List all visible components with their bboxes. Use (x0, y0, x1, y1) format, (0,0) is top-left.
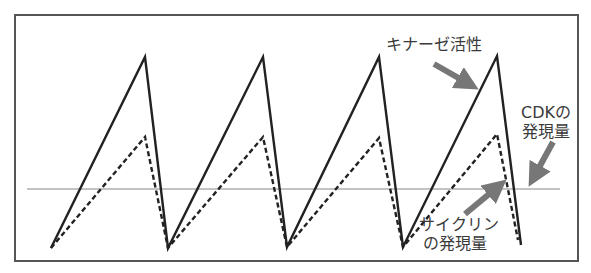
cell-cycle-diagram (0, 0, 591, 273)
cyclin-arrow-icon (465, 186, 498, 214)
cdk-expression-label: CDKの 発現量 (516, 103, 576, 141)
cdk-arrow-icon (534, 142, 553, 177)
cyclin-label-line1: サイクリン (419, 215, 499, 234)
cyclin-label-line2: の発現量 (419, 234, 499, 253)
cdk-label-line1: CDKの (516, 103, 576, 122)
cyclin-expression-label: サイクリン の発現量 (419, 215, 499, 253)
kinase-arrow-icon (434, 64, 469, 84)
cdk-label-line2: 発現量 (516, 122, 576, 141)
kinase-activity-label: キナーゼ活性 (386, 35, 482, 54)
